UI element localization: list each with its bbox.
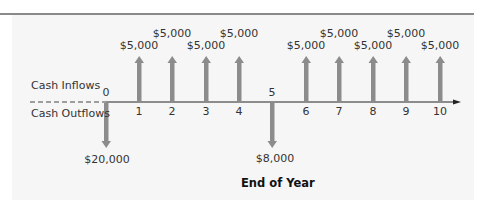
- tick-3: 3: [203, 105, 210, 118]
- amount-year-5: $8,000: [256, 152, 295, 165]
- tick-6: 6: [303, 105, 310, 118]
- x-axis-title: End of Year: [241, 176, 315, 190]
- axis-arrowhead-icon: [453, 100, 461, 105]
- amount-year-8: $5,000: [354, 39, 393, 52]
- amount-year-10: $5,000: [421, 39, 460, 52]
- cash-inflows-label: Cash Inflows: [31, 79, 100, 92]
- cash-outflows-label: Cash Outflows: [31, 107, 110, 120]
- tick-10: 10: [433, 105, 447, 118]
- inflow-arrows: [135, 56, 446, 102]
- amount-year-2: $5,000: [153, 27, 192, 40]
- tick-5: 5: [269, 86, 276, 99]
- tick-8: 8: [370, 105, 377, 118]
- tick-7: 7: [336, 105, 343, 118]
- tick-1: 1: [136, 105, 143, 118]
- tick-9: 9: [403, 105, 410, 118]
- amount-year-4: $5,000: [220, 27, 259, 40]
- amount-year-0: $20,000: [84, 153, 130, 166]
- tick-4: 4: [236, 105, 243, 118]
- amount-year-3: $5,000: [187, 39, 226, 52]
- amount-year-7: $5,000: [320, 27, 359, 40]
- amount-year-6: $5,000: [287, 39, 326, 52]
- tick-0: 0: [103, 86, 110, 99]
- tick-2: 2: [169, 105, 176, 118]
- outflow-arrows: [102, 103, 278, 148]
- amount-year-9: $5,000: [387, 27, 426, 40]
- amount-year-1: $5,000: [120, 39, 159, 52]
